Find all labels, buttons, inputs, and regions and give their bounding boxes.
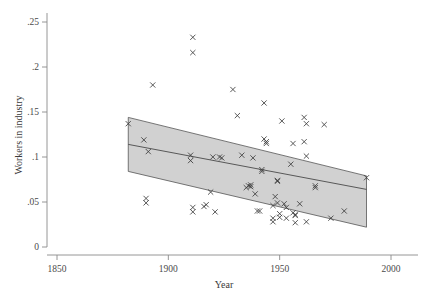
data-point-marker: [230, 87, 235, 92]
data-point-marker: [293, 220, 298, 225]
data-point-marker: [150, 82, 155, 87]
data-point-marker: [190, 205, 195, 210]
data-point-marker: [293, 212, 298, 217]
y-tick-label: .1: [32, 152, 39, 162]
x-tick-label: 1850: [48, 264, 67, 274]
x-tick-label: 2000: [382, 264, 401, 274]
data-point-marker: [190, 209, 195, 214]
confidence-interval-polygon: [128, 117, 366, 227]
data-point-marker: [304, 121, 309, 126]
data-point-marker: [190, 50, 195, 55]
data-point-marker: [302, 115, 307, 120]
x-tick-label: 1950: [270, 264, 289, 274]
data-point-marker: [304, 154, 309, 159]
data-point-marker: [279, 118, 284, 123]
scatter-plot-figure: 0.05.1.15.2.251850190019502000YearWorker…: [0, 0, 432, 293]
data-point-marker: [204, 202, 209, 207]
data-point-marker: [290, 141, 295, 146]
x-tick-label: 1900: [159, 264, 178, 274]
data-point-marker: [322, 122, 327, 127]
plot-canvas: 0.05.1.15.2.251850190019502000YearWorker…: [0, 0, 432, 293]
y-axis-title: Workers in industry: [13, 95, 24, 174]
y-tick-label: .25: [27, 17, 39, 27]
y-tick-label: 0: [34, 242, 39, 252]
y-tick-label: .2: [32, 62, 39, 72]
data-point-marker: [304, 219, 309, 224]
y-tick-label: .05: [27, 197, 39, 207]
data-point-marker: [212, 209, 217, 214]
x-axis-title: Year: [215, 279, 234, 290]
data-point-marker: [143, 196, 148, 201]
data-point-marker: [143, 200, 148, 205]
data-point-marker: [302, 139, 307, 144]
data-point-marker: [261, 100, 266, 105]
data-point-marker: [293, 213, 298, 218]
data-point-marker: [284, 216, 289, 221]
y-tick-label: .15: [27, 107, 39, 117]
data-point-marker: [277, 211, 282, 216]
confidence-band: [128, 117, 366, 227]
data-point-marker: [270, 219, 275, 224]
data-point-marker: [235, 113, 240, 118]
data-point-marker: [190, 35, 195, 40]
